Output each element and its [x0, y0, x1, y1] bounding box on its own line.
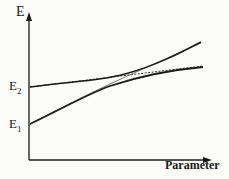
y-axis-label: E: [16, 4, 25, 20]
diagram-canvas: [0, 0, 229, 179]
level-e2-label: E2: [9, 78, 21, 96]
upper-adiabatic-curve: [30, 42, 201, 87]
level-e1-label: E1: [9, 116, 21, 134]
avoided-crossing-diagram: E E2 E1 Parameter: [0, 0, 229, 179]
axes: [26, 12, 212, 163]
x-axis-label: Parameter: [165, 158, 220, 173]
y-axis-arrow-icon: [26, 12, 32, 21]
